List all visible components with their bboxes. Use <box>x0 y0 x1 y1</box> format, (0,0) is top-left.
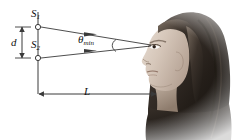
label-theta-subscript: min <box>83 39 94 47</box>
physics-figure: S1 S2 d L θmin <box>0 0 246 140</box>
label-angle-theta-min: θmin <box>78 34 94 47</box>
ray-from-source-1 <box>41 27 151 45</box>
lineart-layer <box>0 0 246 140</box>
label-source-2: S2 <box>31 39 40 52</box>
label-source-2-subscript: 2 <box>37 44 41 52</box>
label-source-1: S1 <box>31 8 40 21</box>
source-1-marker <box>35 24 40 29</box>
source-2-marker <box>35 55 40 60</box>
label-separation-d: d <box>11 37 17 48</box>
label-distance-L: L <box>84 86 90 97</box>
separation-dimension-d <box>15 27 31 58</box>
ray-from-source-2 <box>41 46 151 58</box>
label-source-1-subscript: 1 <box>37 13 41 21</box>
